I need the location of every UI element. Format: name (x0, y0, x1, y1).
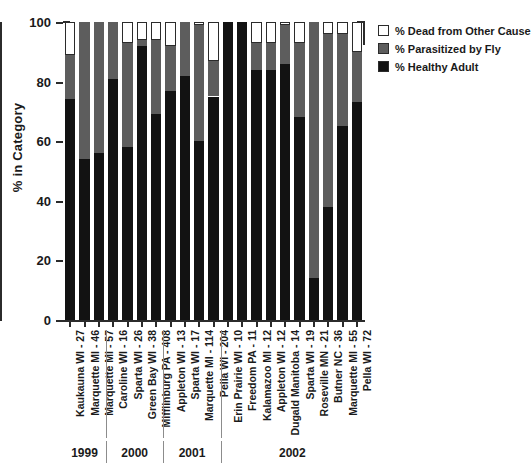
bar-segment (337, 126, 348, 320)
y-axis-tick-label: 0 (44, 313, 51, 328)
bar-stack[interactable] (65, 22, 76, 320)
bar-segment (251, 70, 262, 320)
group-separator (163, 441, 164, 463)
y-axis-tick-mark (56, 22, 63, 24)
bar-segment (94, 153, 105, 320)
bar-segment (280, 25, 291, 64)
bar-stack[interactable] (180, 22, 191, 320)
bar-stack[interactable] (352, 22, 363, 320)
x-axis-tick-mark (270, 322, 272, 327)
x-axis-category-label: Caroline WI - 16 (117, 330, 129, 450)
x-axis-category-label: Sparta WI - 26 (132, 330, 144, 450)
legend-item[interactable]: % Parasitized by Fly (378, 40, 528, 57)
x-axis-category-label: Dugald Manitoba - 14 (289, 330, 301, 450)
bar-stack[interactable] (194, 22, 205, 320)
bar-segment (180, 76, 191, 320)
x-axis-category-label: Freedom PA - 11 (246, 330, 258, 450)
bars-container (63, 22, 364, 320)
bar-segment (266, 70, 277, 320)
bar-segment (352, 102, 363, 320)
group-separator (106, 330, 107, 438)
y-axis-tick-mark (56, 260, 63, 262)
bar-stack[interactable] (208, 22, 219, 320)
plot-area: 020406080100 (63, 22, 364, 320)
bar-segment (251, 43, 262, 70)
bar-stack[interactable] (280, 22, 291, 320)
bar-segment (337, 22, 348, 34)
group-separator (221, 330, 222, 438)
bar-segment (122, 147, 133, 320)
legend-item[interactable]: % Healthy Adult (378, 58, 528, 75)
y-axis-tick-mark (56, 141, 63, 143)
bar-segment (352, 22, 363, 52)
year-group-label: 1999 (71, 446, 98, 460)
bar-segment (165, 46, 176, 91)
bar-segment (165, 91, 176, 320)
x-axis-category-label: Pella WI - 72 (361, 330, 373, 450)
bar-stack[interactable] (137, 22, 148, 320)
x-axis-category-label: Pella WI - 204 (218, 330, 230, 450)
x-axis-tick-mark (170, 322, 172, 327)
y-axis-tick-label: 100 (29, 15, 51, 30)
bar-segment (294, 43, 305, 118)
y-axis-tick-mark (56, 82, 63, 84)
y-axis-tick-label: 80 (37, 74, 51, 89)
bar-segment (352, 52, 363, 103)
x-axis-tick-mark (184, 322, 186, 327)
bar-stack[interactable] (94, 22, 105, 320)
bar-segment (151, 40, 162, 115)
bar-segment (323, 207, 334, 320)
x-axis-tick-mark (227, 322, 229, 327)
x-axis-tick-mark (241, 322, 243, 327)
bar-stack[interactable] (294, 22, 305, 320)
bar-stack[interactable] (165, 22, 176, 320)
bar-stack[interactable] (266, 22, 277, 320)
x-axis-category-label: Appleton WI - 13 (175, 330, 187, 450)
bar-stack[interactable] (323, 22, 334, 320)
bar-stack[interactable] (237, 22, 248, 320)
x-axis-tick-mark (327, 322, 329, 327)
bar-stack[interactable] (79, 22, 90, 320)
legend-item[interactable]: % Dead from Other Cause (378, 22, 528, 39)
x-axis-category-label: Kalamazoo MI - 12 (261, 330, 273, 450)
bar-stack[interactable] (122, 22, 133, 320)
bar-segment (79, 159, 90, 320)
bar-segment (266, 22, 277, 43)
bar-segment (137, 40, 148, 46)
bar-segment (223, 22, 234, 320)
bar-stack[interactable] (223, 22, 234, 320)
bar-stack[interactable] (151, 22, 162, 320)
bar-segment (108, 79, 119, 320)
x-axis-tick-mark (313, 322, 315, 327)
legend-label: % Healthy Adult (395, 61, 478, 73)
bar-segment (65, 55, 76, 100)
x-axis-tick-mark (342, 322, 344, 327)
bar-segment (165, 22, 176, 46)
bar-segment (65, 99, 76, 320)
x-axis-tick-mark (69, 322, 71, 327)
bar-stack[interactable] (108, 22, 119, 320)
bar-segment (323, 34, 334, 207)
x-axis-tick-mark (356, 322, 358, 327)
bar-segment (194, 22, 205, 25)
bar-stack[interactable] (309, 22, 320, 320)
x-axis-category-label: Appleton WI - 12 (275, 330, 287, 450)
bar-stack[interactable] (251, 22, 262, 320)
y-axis-tick-label: 60 (37, 134, 51, 149)
x-axis-tick-mark (256, 322, 258, 327)
x-axis-tick-mark (127, 322, 129, 327)
x-axis-category-label: Mifflinburg PA - 408 (160, 330, 172, 450)
x-axis-tick-mark (84, 322, 86, 327)
x-axis-category-label: Marquette MI - 46 (89, 330, 101, 450)
bar-segment (151, 114, 162, 320)
bar-segment (194, 141, 205, 320)
bar-segment (337, 34, 348, 126)
legend-label: % Dead from Other Cause (395, 25, 531, 37)
y-axis-tick-label: 40 (37, 193, 51, 208)
x-axis-category-label: Green Bay WI - 38 (146, 330, 158, 450)
bar-segment (208, 22, 219, 61)
group-separator (221, 441, 222, 463)
legend-label: % Parasitized by Fly (395, 43, 501, 55)
bar-stack[interactable] (337, 22, 348, 320)
